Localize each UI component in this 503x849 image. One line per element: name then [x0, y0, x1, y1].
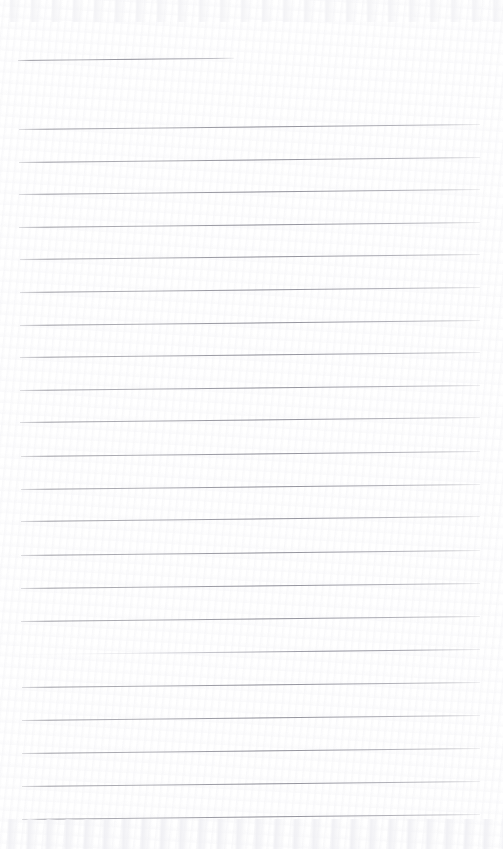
- scan-noise-top-band: [0, 0, 503, 22]
- ruled-line: [22, 649, 480, 655]
- ruled-line: [21, 616, 480, 622]
- ruled-line: [19, 124, 480, 130]
- ruled-line: [22, 715, 480, 721]
- ruled-line: [20, 287, 480, 293]
- ruled-line: [18, 58, 234, 61]
- ruled-line: [20, 385, 480, 391]
- ruled-line: [22, 682, 480, 688]
- ruled-line: [22, 814, 480, 820]
- ruled-line: [21, 583, 480, 589]
- ruled-line: [21, 550, 480, 556]
- ruled-line: [20, 417, 480, 423]
- ruled-line: [21, 451, 480, 457]
- ruled-line: [20, 254, 480, 260]
- ruled-line: [19, 222, 480, 228]
- ruled-line: [20, 320, 480, 326]
- ruled-line: [21, 484, 480, 490]
- ruled-line: [22, 748, 480, 754]
- ruled-line: [21, 516, 480, 522]
- ruled-line: [22, 781, 480, 787]
- ruled-line: [20, 352, 480, 358]
- scanned-page: [0, 0, 503, 849]
- scan-noise-bottom-band: [0, 819, 503, 849]
- ruled-line: [19, 189, 480, 195]
- ruled-line: [19, 157, 480, 163]
